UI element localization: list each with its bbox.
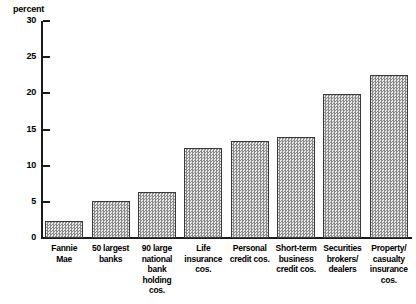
x-axis-category-label: Securitiesbrokers/dealers <box>319 243 365 275</box>
x-axis-category-label: FannieMae <box>41 243 87 264</box>
bar <box>45 221 83 238</box>
y-axis-tick-label: 0 <box>10 233 36 242</box>
y-axis-tick-label: 15 <box>10 125 36 134</box>
plot-area <box>41 21 412 238</box>
x-axis-category-label-line: Securities <box>319 243 365 254</box>
bar <box>231 141 269 238</box>
x-axis-category-label-line: insurance cos. <box>366 264 412 285</box>
bar <box>370 75 408 238</box>
x-axis-category-label-line: Fannie <box>41 243 87 254</box>
x-axis-category-label-line: Personal <box>227 243 273 254</box>
bar <box>184 148 222 238</box>
x-axis-category-label-line: dealers <box>319 264 365 275</box>
x-axis-category-label-line: holding cos. <box>134 275 180 296</box>
x-axis-category-label-line: business <box>273 254 319 265</box>
y-axis-unit-label: percent <box>13 4 44 14</box>
x-axis-category-label-line: 50 largest <box>87 243 133 254</box>
y-axis-tick-label: 25 <box>10 52 36 61</box>
x-axis-category-label-line: Short-term <box>273 243 319 254</box>
bar <box>323 94 361 238</box>
bar-chart: percent 051015202530 FannieMae50 largest… <box>0 0 416 304</box>
x-axis-category-label-line: credit cos. <box>273 264 319 275</box>
x-axis-category-label-line: national bank <box>134 254 180 275</box>
x-axis-category-label-line: insurance <box>180 254 226 265</box>
x-axis-category-label: 90 largenational bankholding cos. <box>134 243 180 296</box>
x-axis-category-label: Property/casualtyinsurance cos. <box>366 243 412 285</box>
x-axis-category-label-line: banks <box>87 254 133 265</box>
y-axis-tick-label: 5 <box>10 197 36 206</box>
x-axis-category-label-line: Mae <box>41 254 87 265</box>
x-axis-category-label-line: brokers/ <box>319 254 365 265</box>
bar <box>92 201 130 238</box>
bar <box>277 137 315 238</box>
x-axis-category-label: Personalcredit cos. <box>227 243 273 264</box>
x-axis-category-label: Lifeinsurancecos. <box>180 243 226 275</box>
y-axis-tick-label: 30 <box>10 16 36 25</box>
x-axis-category-label: 50 largestbanks <box>87 243 133 264</box>
x-axis-category-labels: FannieMae50 largestbanks90 largenational… <box>41 243 412 301</box>
y-axis-tick-label: 20 <box>10 88 36 97</box>
x-axis-category-label: Short-termbusinesscredit cos. <box>273 243 319 275</box>
bar <box>138 192 176 238</box>
x-axis-category-label-line: 90 large <box>134 243 180 254</box>
x-axis-category-label-line: casualty <box>366 254 412 265</box>
x-axis-category-label-line: credit cos. <box>227 254 273 265</box>
x-axis-category-label-line: cos. <box>180 264 226 275</box>
y-axis-tick-label: 10 <box>10 161 36 170</box>
x-axis-category-label-line: Life <box>180 243 226 254</box>
x-axis-category-label-line: Property/ <box>366 243 412 254</box>
